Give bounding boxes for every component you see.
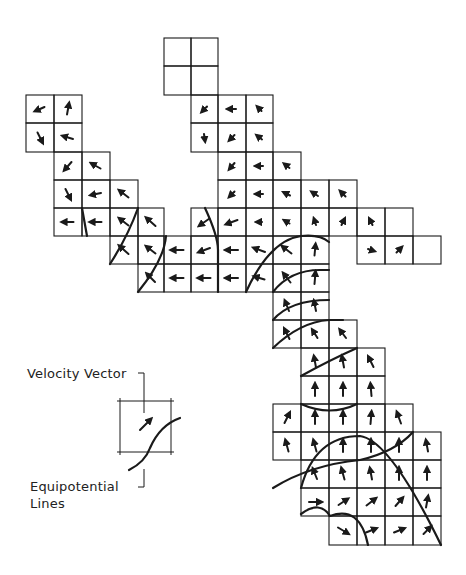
- velocity-arrow-icon: [370, 469, 372, 480]
- velocity-arrow-icon: [397, 413, 401, 424]
- equipotential-leader-line: [138, 469, 144, 487]
- velocity-arrow-icon: [285, 164, 290, 168]
- velocity-arrow-icon: [285, 221, 290, 224]
- velocity-arrow-icon: [342, 357, 344, 368]
- legend-graphic: [117, 373, 180, 487]
- velocity-arrow-icon: [257, 136, 262, 140]
- grid-cell: [191, 66, 218, 95]
- equipotential-line: [82, 208, 87, 236]
- velocity-arrow-icon: [283, 247, 292, 254]
- velocity-arrow-icon: [285, 413, 290, 423]
- velocity-arrow-icon: [38, 133, 43, 143]
- velocity-arrow-icon: [202, 107, 207, 112]
- velocity-arrow-icon: [66, 189, 71, 199]
- grid-cell: [164, 66, 191, 95]
- velocity-arrow-icon: [369, 357, 374, 367]
- velocity-arrow-icon: [394, 529, 404, 533]
- velocity-arrow-icon: [342, 469, 345, 480]
- velocity-arrow-icon: [315, 245, 316, 256]
- legend-equipotential-line: [129, 418, 180, 470]
- velocity-arrow-icon: [371, 412, 372, 424]
- velocity-arrow-icon: [370, 219, 373, 225]
- velocity-arrow-icon: [65, 162, 72, 170]
- velocity-arrow-icon: [200, 219, 210, 226]
- grid-cell: [164, 38, 191, 66]
- velocity-arrow-icon: [227, 220, 238, 224]
- velocity-arrow-icon: [91, 193, 101, 195]
- velocity-arrow-icon: [258, 107, 262, 111]
- grid-cells: [26, 38, 441, 545]
- velocity-arrow-icon: [315, 272, 316, 284]
- velocity-arrow-icon: [255, 277, 265, 280]
- velocity-arrow-icon: [367, 499, 376, 506]
- velocity-arrow-icon: [341, 192, 346, 197]
- equipotential-line: [273, 320, 343, 348]
- grid-cell: [413, 236, 441, 264]
- velocity-arrow-icon: [286, 441, 289, 452]
- velocity-arrow-icon: [120, 191, 129, 198]
- velocity-arrow-icon: [230, 135, 235, 140]
- equipotential-lines: [82, 208, 441, 545]
- velocity-arrow-icon: [368, 249, 374, 251]
- velocity-arrow-icon: [147, 218, 156, 226]
- velocity-arrow-icon: [366, 529, 376, 533]
- velocity-arrow-icon: [426, 441, 428, 452]
- velocity-arrow-icon: [63, 136, 73, 139]
- velocity-arrow-icon: [254, 248, 265, 252]
- velocity-field-diagram: Velocity Vector Equipotential Lines: [0, 0, 466, 575]
- equipotential-label-lines: Lines: [30, 496, 65, 511]
- velocity-arrow-icon: [371, 384, 372, 396]
- velocity-arrow-icon: [396, 498, 403, 506]
- equipotential-line: [301, 507, 368, 545]
- velocity-arrow-icon: [204, 134, 205, 141]
- velocity-arrow-icon: [199, 248, 210, 252]
- velocity-arrow-icon: [67, 104, 69, 115]
- velocity-arrow-icon: [342, 219, 345, 225]
- velocity-arrow-icon: [313, 330, 318, 338]
- velocity-arrow-icon: [120, 219, 129, 226]
- velocity-vector-label: Velocity Vector: [27, 366, 127, 381]
- velocity-arrow-icon: [147, 247, 156, 254]
- velocity-arrow-icon: [426, 497, 428, 508]
- grid-cell: [385, 208, 413, 236]
- velocity-arrow-icon: [397, 248, 402, 253]
- velocity-arrow-icon: [314, 219, 316, 225]
- velocity-arrow-icon: [338, 528, 348, 534]
- velocity-arrow-icon: [92, 164, 101, 169]
- velocity-leader-line: [138, 373, 144, 413]
- velocity-arrow-icon: [314, 301, 316, 311]
- velocity-arrow-icon: [312, 192, 318, 196]
- velocity-arrow-icon: [340, 330, 346, 338]
- velocity-arrow-icon: [424, 527, 431, 534]
- grid-cell: [191, 38, 218, 66]
- velocity-arrow-icon: [230, 192, 235, 197]
- velocity-vectors: [36, 104, 431, 535]
- velocity-arrow-icon: [314, 357, 316, 368]
- velocity-arrow-icon: [36, 107, 45, 111]
- legend-velocity-arrow-icon: [140, 419, 151, 430]
- velocity-arrow-icon: [230, 163, 235, 169]
- velocity-arrow-icon: [314, 441, 317, 452]
- velocity-arrow-icon: [339, 499, 348, 505]
- velocity-arrow-icon: [284, 193, 290, 196]
- equipotential-label: Equipotential: [30, 479, 119, 494]
